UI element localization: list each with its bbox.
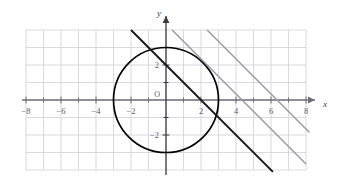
y-axis-label: y — [156, 8, 161, 18]
x-tick-label-6: 6 — [269, 106, 273, 116]
y-tick-label-2: 2 — [155, 60, 159, 70]
coordinate-plane: −8 −6 −4 −2 2 4 6 8 2 −2 O x y — [0, 0, 343, 187]
x-tick-label-neg4: −4 — [91, 106, 101, 116]
x-tick-label-8: 8 — [304, 106, 308, 116]
plot-background — [0, 0, 343, 187]
x-axis-label: x — [322, 99, 327, 109]
x-tick-label-neg2: −2 — [126, 106, 135, 116]
x-tick-label-2: 2 — [199, 106, 203, 116]
graph-figure: −8 −6 −4 −2 2 4 6 8 2 −2 O x y — [0, 0, 343, 187]
x-tick-label-neg6: −6 — [56, 106, 65, 116]
origin-label: O — [154, 90, 160, 99]
y-tick-label-neg2: −2 — [150, 130, 159, 140]
x-tick-label-neg8: −8 — [21, 106, 30, 116]
